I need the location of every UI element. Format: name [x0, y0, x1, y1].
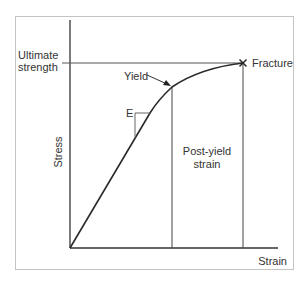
stress-strain-diagram: Ultimate strength Yield Fracture E Post-…	[0, 0, 305, 281]
yield-arrow	[147, 75, 167, 84]
y-axis-label: Stress	[52, 136, 64, 168]
ultimate-strength-label-line1: Ultimate	[18, 49, 58, 61]
fracture-label: Fracture	[252, 57, 293, 69]
yield-label: Yield	[124, 70, 148, 82]
ultimate-strength-label-line2: strength	[18, 61, 58, 73]
modulus-label: E	[126, 107, 133, 119]
post-yield-label-line2: strain	[194, 158, 221, 170]
post-yield-label-line1: Post-yield	[183, 145, 231, 157]
x-axis-label: Strain	[258, 255, 287, 267]
